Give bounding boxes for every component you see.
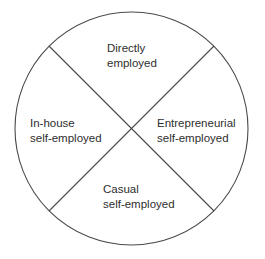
quadrant-label-line: employed (107, 56, 157, 71)
quadrant-label-line: self-employed (157, 131, 236, 146)
quadrant-label-casual-self-employed: Casual self-employed (103, 182, 175, 212)
quadrant-label-line: self-employed (30, 131, 102, 146)
quadrant-label-line: Casual (103, 182, 175, 197)
quadrant-label-line: Directly (107, 41, 157, 56)
quadrant-label-in-house-self-employed: In-house self-employed (30, 116, 102, 146)
quadrant-label-directly-employed: Directly employed (107, 41, 157, 71)
quadrant-label-line: self-employed (103, 197, 175, 212)
quadrant-label-line: In-house (30, 116, 102, 131)
quadrant-label-entrepreneurial-self-employed: Entrepreneurial self-employed (157, 116, 236, 146)
quadrant-label-line: Entrepreneurial (157, 116, 236, 131)
